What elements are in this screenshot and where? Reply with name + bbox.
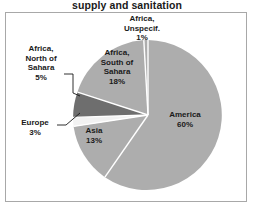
pie-label-line2: Unspecif.: [124, 24, 160, 33]
pie-label-africa-unspecified: Africa, Unspecif. 1%: [106, 14, 178, 43]
pie-label-value: 5%: [8, 73, 74, 83]
pie-label-value: 13%: [72, 136, 116, 146]
pie-label-line1: Africa,: [105, 48, 130, 57]
pie-label-line2: South of: [101, 58, 133, 67]
pie-label-value: 18%: [86, 77, 148, 87]
pie-label-line1: Europe: [21, 118, 49, 127]
pie-label-line1: Africa,: [130, 14, 155, 23]
pie-label-africa-north-of-sahara: Africa, North of Sahara 5%: [8, 44, 74, 82]
pie-label-value: 60%: [154, 120, 216, 130]
pie-label-america: America 60%: [154, 110, 216, 129]
pie-label-line3: Sahara: [104, 67, 131, 76]
pie-label-value: 1%: [106, 33, 178, 43]
pie-label-line1: Asia: [86, 126, 103, 135]
pie-label-asia: Asia 13%: [72, 126, 116, 145]
pie-label-europe: Europe 3%: [6, 118, 64, 137]
pie-label-value: 3%: [6, 128, 64, 138]
pie-label-line1: Africa,: [29, 44, 54, 53]
pie-label-africa-south-of-sahara: Africa, South of Sahara 18%: [86, 48, 148, 86]
pie-chart-screenshot: supply and sanitation Africa, U: [0, 0, 254, 209]
pie-label-line2: North of: [25, 54, 56, 63]
pie-label-line1: America: [169, 110, 201, 119]
pie-label-line3: Sahara: [28, 63, 55, 72]
